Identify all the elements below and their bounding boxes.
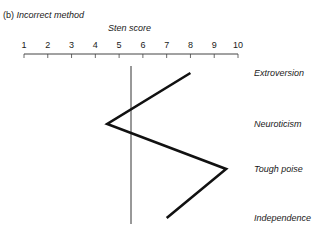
- profile-polyline: [107, 73, 226, 218]
- sten-profile-chart: 12345678910 ExtroversionNeuroticismTough…: [0, 0, 325, 233]
- tick-label: 2: [45, 40, 50, 50]
- tick-label: 7: [164, 40, 169, 50]
- category-label: Extroversion: [254, 68, 304, 78]
- tick-label: 5: [117, 40, 122, 50]
- tick-label: 1: [21, 40, 26, 50]
- tick-label: 6: [140, 40, 145, 50]
- category-label: Neuroticism: [254, 119, 302, 129]
- profile-line: [107, 73, 226, 218]
- x-axis: 12345678910: [21, 40, 243, 58]
- tick-label: 4: [93, 40, 98, 50]
- tick-label: 8: [188, 40, 193, 50]
- tick-label: 3: [69, 40, 74, 50]
- category-labels: ExtroversionNeuroticismTough poiseIndepe…: [254, 68, 311, 223]
- category-label: Tough poise: [254, 164, 303, 174]
- category-label: Independence: [254, 213, 311, 223]
- tick-label: 9: [212, 40, 217, 50]
- tick-label: 10: [233, 40, 243, 50]
